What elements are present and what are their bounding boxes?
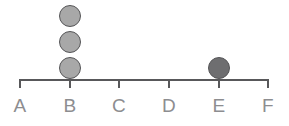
axis-tick-f bbox=[267, 79, 269, 88]
axis-label-e: E bbox=[204, 95, 234, 117]
data-dot bbox=[59, 5, 81, 27]
axis-tick-b bbox=[69, 79, 71, 88]
dot-plot-chart: ABCDEF bbox=[0, 0, 289, 126]
axis-tick-c bbox=[118, 79, 120, 88]
axis-label-a: A bbox=[5, 95, 35, 117]
axis-label-b: B bbox=[55, 95, 85, 117]
axis-tick-a bbox=[19, 79, 21, 88]
data-dot bbox=[59, 31, 81, 53]
data-dot bbox=[208, 57, 230, 79]
axis-label-c: C bbox=[104, 95, 134, 117]
axis-label-d: D bbox=[154, 95, 184, 117]
axis-tick-d bbox=[168, 79, 170, 88]
x-axis-line bbox=[20, 79, 268, 81]
axis-tick-e bbox=[218, 79, 220, 88]
data-dot bbox=[59, 57, 81, 79]
axis-label-f: F bbox=[253, 95, 283, 117]
